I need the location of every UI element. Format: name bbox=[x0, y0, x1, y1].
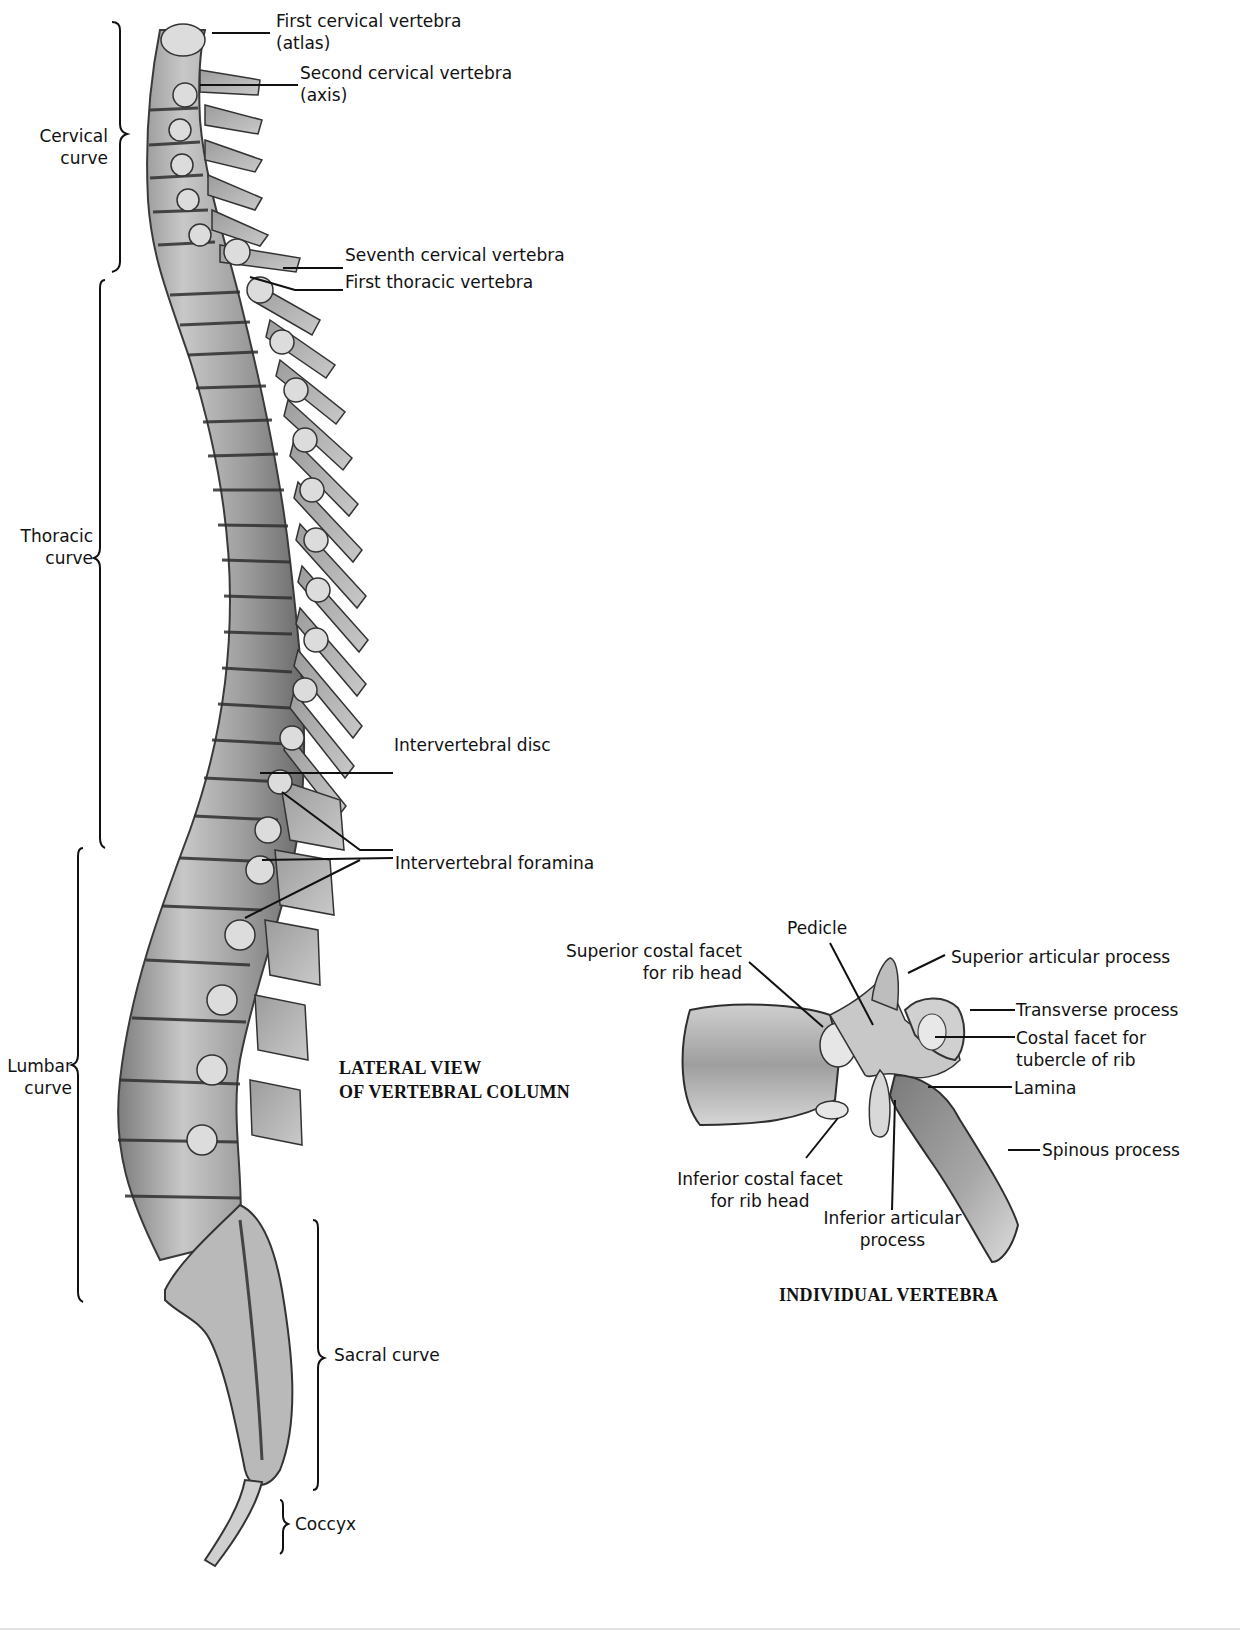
region-label-line: curve bbox=[0, 1077, 72, 1099]
label-seventh-cervical-vertebra: Seventh cervical vertebra bbox=[345, 244, 565, 266]
sacral-brace bbox=[313, 1220, 324, 1490]
region-label-line: curve bbox=[20, 147, 108, 169]
thoracic-brace bbox=[94, 280, 105, 848]
label-lamina: Lamina bbox=[1014, 1077, 1076, 1099]
lateral-view-title: LATERAL VIEW OF VERTEBRAL COLUMN bbox=[339, 1056, 570, 1104]
cervical-brace bbox=[112, 22, 127, 272]
region-label-line: Lumbar bbox=[0, 1055, 72, 1077]
sacrum-coccyx bbox=[165, 1205, 292, 1566]
region-label-cervical: Cervical curve bbox=[20, 125, 108, 169]
label-line: First cervical vertebra bbox=[276, 10, 461, 32]
label-line: (axis) bbox=[300, 84, 512, 106]
label-transverse-process: Transverse process bbox=[1016, 999, 1178, 1021]
label-inferior-costal-facet: Inferior costal facet for rib head bbox=[675, 1168, 845, 1212]
individual-vertebra-title: INDIVIDUAL VERTEBRA bbox=[779, 1283, 998, 1307]
region-label-line: Cervical bbox=[20, 125, 108, 147]
label-line: Superior costal facet bbox=[562, 940, 742, 962]
label-line: tubercle of rib bbox=[1016, 1049, 1146, 1071]
region-label-lumbar: Lumbar curve bbox=[0, 1055, 72, 1099]
label-superior-articular-process: Superior articular process bbox=[951, 946, 1170, 968]
label-first-cervical-vertebra: First cervical vertebra (atlas) bbox=[276, 10, 461, 54]
region-label-sacral: Sacral curve bbox=[334, 1344, 440, 1366]
label-costal-facet-tubercle: Costal facet for tubercle of rib bbox=[1016, 1027, 1146, 1071]
label-line: Second cervical vertebra bbox=[300, 62, 512, 84]
label-superior-costal-facet: Superior costal facet for rib head bbox=[562, 940, 742, 984]
label-first-thoracic-vertebra: First thoracic vertebra bbox=[345, 271, 533, 293]
label-intervertebral-foramina: Intervertebral foramina bbox=[395, 852, 594, 874]
coccyx-brace bbox=[280, 1500, 288, 1554]
title-line: LATERAL VIEW bbox=[339, 1056, 570, 1080]
label-line: for rib head bbox=[562, 962, 742, 984]
label-line: Inferior articular bbox=[815, 1207, 970, 1229]
label-line: Inferior costal facet bbox=[675, 1168, 845, 1190]
bottom-divider bbox=[0, 1628, 1240, 1630]
region-label-coccyx: Coccyx bbox=[295, 1513, 356, 1535]
region-label-thoracic: Thoracic curve bbox=[5, 525, 93, 569]
vertebral-column-figure: Cervical curve Thoracic curve Lumbar cur… bbox=[0, 0, 1240, 1639]
label-line: process bbox=[815, 1229, 970, 1251]
label-pedicle: Pedicle bbox=[787, 917, 847, 939]
label-intervertebral-disc: Intervertebral disc bbox=[394, 734, 551, 756]
title-line: OF VERTEBRAL COLUMN bbox=[339, 1080, 570, 1104]
region-label-line: curve bbox=[5, 547, 93, 569]
label-spinous-process: Spinous process bbox=[1042, 1139, 1180, 1161]
label-second-cervical-vertebra: Second cervical vertebra (axis) bbox=[300, 62, 512, 106]
region-label-line: Thoracic bbox=[5, 525, 93, 547]
spine-illustration bbox=[0, 0, 1240, 1639]
label-line: Costal facet for bbox=[1016, 1027, 1146, 1049]
label-inferior-articular-process: Inferior articular process bbox=[815, 1207, 970, 1251]
lumbar-brace bbox=[72, 848, 83, 1302]
label-line: (atlas) bbox=[276, 32, 461, 54]
